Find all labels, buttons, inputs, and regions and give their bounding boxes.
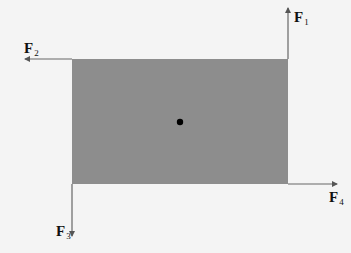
label-f3-sub: 3 <box>66 231 71 241</box>
label-f2-base: F <box>24 40 33 56</box>
label-f1: F1 <box>294 10 309 27</box>
label-f1-sub: 1 <box>304 17 309 27</box>
label-f3: F3 <box>56 224 71 241</box>
label-f1-base: F <box>294 9 303 25</box>
force-diagram <box>0 0 351 253</box>
label-f4-sub: 4 <box>339 197 344 207</box>
label-f2: F2 <box>24 41 39 58</box>
label-f4-base: F <box>329 189 338 205</box>
label-f4: F4 <box>329 190 344 207</box>
center-of-mass-dot <box>177 119 183 125</box>
label-f2-sub: 2 <box>34 48 39 58</box>
label-f3-base: F <box>56 223 65 239</box>
